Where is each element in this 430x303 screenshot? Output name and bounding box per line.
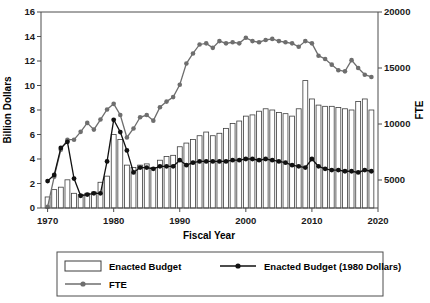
bar xyxy=(336,108,341,208)
bar xyxy=(72,193,77,208)
y-axis-title: Billion Dollars xyxy=(2,76,13,144)
real-dollars-point xyxy=(310,157,315,162)
real-dollars-point xyxy=(276,159,281,164)
bar xyxy=(65,180,70,208)
real-dollars-point xyxy=(296,164,301,169)
bar xyxy=(323,106,328,208)
bar xyxy=(138,165,143,208)
fte-point xyxy=(184,61,189,66)
real-dollars-point xyxy=(45,179,50,184)
dual-axis-chart: 0246810121416500010000150002000019701980… xyxy=(0,0,430,303)
real-dollars-point xyxy=(52,173,57,178)
bar xyxy=(58,187,63,208)
real-dollars-point xyxy=(270,158,275,163)
chart-legend: Enacted BudgetEnacted Budget (1980 Dolla… xyxy=(57,252,401,296)
x-axis-tick-label: 1990 xyxy=(169,215,190,226)
bar xyxy=(349,110,354,208)
legend-item: Enacted Budget xyxy=(65,261,182,272)
plot-area xyxy=(45,35,374,209)
bar xyxy=(197,136,202,208)
bar xyxy=(230,123,235,208)
fte-point xyxy=(158,105,163,110)
fte-point xyxy=(316,53,321,58)
bar xyxy=(184,143,189,208)
fte-point xyxy=(237,41,242,46)
fte-point xyxy=(356,66,361,71)
x-axis-tick-label: 2020 xyxy=(367,215,388,226)
bar xyxy=(316,105,321,208)
fte-point xyxy=(144,113,149,118)
real-dollars-point xyxy=(197,159,202,164)
fte-point xyxy=(362,72,367,77)
real-dollars-point xyxy=(336,168,341,173)
x-axis-tick-label: 2000 xyxy=(235,215,256,226)
real-dollars-point xyxy=(184,163,189,168)
bar xyxy=(144,164,149,208)
real-dollars-point xyxy=(138,165,143,170)
legend-swatch-bar xyxy=(65,261,101,271)
fte-point xyxy=(131,126,136,131)
bar xyxy=(250,115,255,208)
y2-axis-tick-label: 5000 xyxy=(384,174,405,185)
y-axis-tick-label: 12 xyxy=(24,55,35,66)
fte-point xyxy=(191,51,196,56)
legend-label: Enacted Budget (1980 Dollars) xyxy=(264,261,401,272)
real-dollars-point xyxy=(210,159,215,164)
real-dollars-point xyxy=(217,159,222,164)
bar xyxy=(171,155,176,208)
fte-point xyxy=(263,38,268,43)
real-dollars-point xyxy=(111,117,116,122)
fte-point xyxy=(290,41,295,46)
bar xyxy=(369,110,374,208)
fte-point xyxy=(323,57,328,62)
real-dollars-point xyxy=(151,166,156,171)
y-axis-tick-label: 0 xyxy=(30,202,35,213)
fte-point xyxy=(270,37,275,42)
y2-axis-tick-label: 10000 xyxy=(384,118,410,129)
real-dollars-point xyxy=(369,169,374,174)
bar xyxy=(52,190,57,208)
real-dollars-point xyxy=(164,164,169,169)
real-dollars-point xyxy=(362,168,367,173)
bar xyxy=(290,116,295,208)
real-dollars-point xyxy=(144,165,149,170)
real-dollars-point xyxy=(230,158,235,163)
bar xyxy=(118,139,123,208)
fte-point xyxy=(336,68,341,73)
real-dollars-point xyxy=(191,160,196,165)
real-dollars-point xyxy=(58,146,63,151)
real-dollars-point xyxy=(343,169,348,174)
bar xyxy=(362,99,367,208)
bar xyxy=(151,168,156,208)
x-axis-tick-label: 1980 xyxy=(103,215,124,226)
bar xyxy=(296,109,301,208)
bar xyxy=(309,99,314,208)
fte-point xyxy=(118,113,123,118)
fte-point xyxy=(171,95,176,100)
real-dollars-point xyxy=(349,169,354,174)
fte-point xyxy=(329,62,334,67)
real-dollars-point xyxy=(125,148,130,153)
real-dollars-point xyxy=(171,164,176,169)
fte-point xyxy=(211,46,216,51)
real-dollars-point xyxy=(243,157,248,162)
y2-axis-tick-label: 15000 xyxy=(384,62,410,73)
legend-label: Enacted Budget xyxy=(109,261,182,272)
fte-point xyxy=(369,75,374,80)
real-dollars-point xyxy=(329,168,334,173)
real-dollars-point xyxy=(224,159,229,164)
fte-point xyxy=(230,40,235,45)
y-axis-tick-label: 16 xyxy=(24,6,35,17)
real-dollars-point xyxy=(65,139,70,144)
bar-series-enacted-budget xyxy=(45,81,374,208)
legend-box xyxy=(57,252,383,296)
real-dollars-point xyxy=(204,159,209,164)
fte-point xyxy=(197,42,202,47)
fte-point xyxy=(296,44,301,49)
bar xyxy=(124,165,129,208)
bar xyxy=(237,121,242,208)
fte-point xyxy=(111,102,116,107)
fte-point xyxy=(343,69,348,74)
real-dollars-point xyxy=(283,160,288,165)
fte-point xyxy=(151,118,156,123)
